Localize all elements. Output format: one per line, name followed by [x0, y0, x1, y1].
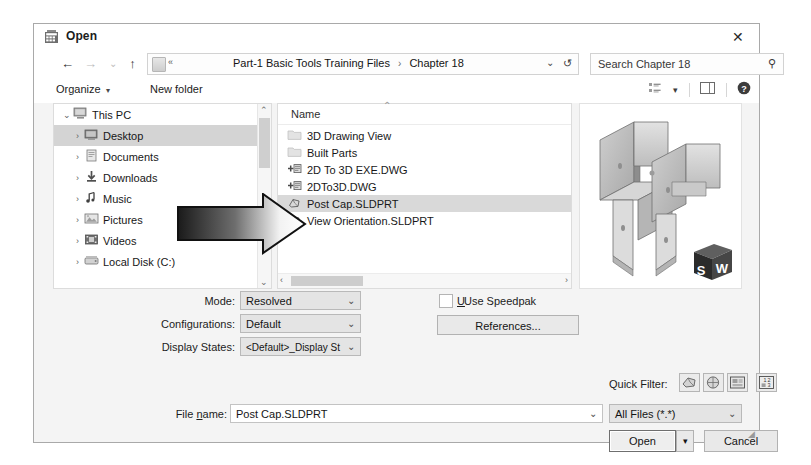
up-one-level-icon[interactable]: ↑ [124, 55, 141, 72]
chevron-down-icon: ⌄ [347, 295, 355, 306]
desktop-icon [84, 127, 99, 140]
svg-text:S: S [697, 263, 706, 278]
toolbar-divider [689, 83, 690, 97]
chevron-right-icon[interactable]: › [71, 126, 84, 147]
breadcrumb-item-1[interactable]: Chapter 18 [409, 57, 463, 69]
chevron-right-icon[interactable]: › [71, 210, 84, 231]
back-icon[interactable]: ← [59, 55, 76, 72]
folder-icon [287, 128, 302, 141]
chevron-down-icon: ⌄ [347, 318, 355, 329]
tree-item-label: Videos [103, 235, 136, 247]
filter-drawings-icon[interactable] [727, 373, 748, 392]
file-list-item[interactable]: Built Parts [278, 144, 571, 161]
dwg-icon [287, 162, 302, 175]
resize-grip[interactable]: ◢ [748, 429, 755, 439]
dwg-icon [287, 179, 302, 192]
chevron-right-icon[interactable]: › [71, 147, 84, 168]
configurations-combobox[interactable]: Default ⌄ [240, 314, 361, 333]
close-icon[interactable]: ✕ [723, 26, 753, 48]
chevron-down-icon[interactable]: ⌄ [546, 57, 554, 68]
recent-locations-icon[interactable]: ⌄ [104, 55, 121, 72]
file-name-input[interactable]: Post Cap.SLDPRT ⌄ [230, 404, 603, 423]
file-list-hscrollbar[interactable]: ‹ › [278, 273, 571, 288]
preview-pane-icon[interactable] [700, 81, 715, 99]
display-states-combobox[interactable]: <Default>_Display St ⌄ [240, 337, 361, 356]
local-disk-icon [84, 253, 99, 266]
file-list-item[interactable]: 2DTo3D.DWG [278, 178, 571, 195]
use-speedpak-checkbox[interactable] [439, 294, 453, 308]
help-icon[interactable]: ? [737, 81, 751, 100]
search-box[interactable]: Search Chapter 18 ⚲ [590, 53, 784, 75]
command-bar: Organize▾ New folder ▾ [34, 77, 759, 103]
dialog-content: ⌄This PC›Desktop›Documents›Downloads›Mus… [34, 103, 759, 442]
scroll-up-icon[interactable]: ⌃ [260, 105, 268, 115]
chevron-right-icon[interactable]: › [71, 231, 84, 252]
scroll-down-icon[interactable]: ⌄ [260, 277, 268, 287]
breadcrumb-item-0[interactable]: Part-1 Basic Tools Training Files [233, 57, 390, 69]
address-bar[interactable]: « Part-1 Basic Tools Training Files › Ch… [147, 53, 579, 75]
filter-assemblies-icon[interactable] [703, 373, 724, 392]
documents-icon [84, 148, 99, 161]
forward-icon[interactable]: → [82, 55, 99, 72]
file-list-item[interactable]: 3D Drawing View [278, 127, 571, 144]
svg-text:?: ? [741, 84, 747, 94]
chevron-right-icon[interactable]: › [71, 189, 84, 210]
search-input[interactable]: Search Chapter 18 [598, 58, 690, 70]
downloads-icon [84, 169, 99, 182]
tree-item-label: Music [103, 193, 132, 205]
mode-combobox[interactable]: Resolved ⌄ [240, 291, 361, 310]
display-states-value: <Default>_Display St [246, 342, 340, 353]
this-pc-icon [73, 106, 88, 119]
svg-text:3: 3 [768, 382, 771, 388]
svg-text:W: W [716, 261, 729, 276]
folder-icon [152, 57, 166, 72]
chevron-down-icon: ⌄ [347, 341, 355, 352]
open-button[interactable]: Open [609, 430, 676, 452]
open-split-caret-icon[interactable]: ▾ [676, 430, 694, 452]
toolbar-divider [726, 83, 727, 97]
tree-item-desktop[interactable]: ›Desktop [54, 125, 271, 146]
filter-top-level-icon[interactable]: 1 2 3 [756, 373, 777, 392]
breadcrumb-overflow-icon[interactable]: « [168, 57, 173, 67]
filter-parts-icon[interactable] [679, 373, 700, 392]
refresh-icon[interactable]: ↺ [563, 57, 572, 70]
pictures-icon [84, 211, 99, 224]
file-list-item[interactable]: Post Cap.SLDPRT [278, 195, 571, 212]
file-name: 2D To 3D EXE.DWG [307, 164, 408, 176]
chevron-down-icon[interactable]: ▾ [673, 81, 678, 99]
tree-item-downloads[interactable]: ›Downloads [54, 167, 271, 188]
organize-label: Organize [56, 83, 101, 95]
tree-item-label: Local Disk (C:) [103, 256, 175, 268]
use-speedpak-text: Use Speedpak [464, 295, 536, 307]
scrollbar-thumb[interactable] [259, 118, 270, 168]
solidworks-open-icon [44, 29, 59, 44]
view-list-icon[interactable] [649, 81, 663, 99]
solidworks-logo: S W [694, 244, 732, 280]
chevron-right-icon[interactable]: › [71, 168, 84, 189]
preview-pane: S W [579, 103, 742, 289]
display-states-label: Display States: [122, 341, 235, 353]
open-file-dialog: Open ✕ ← → ⌄ ↑ « Part-1 Basic Tools Trai… [33, 23, 760, 443]
chevron-right-icon[interactable]: › [71, 252, 84, 273]
file-type-value: All Files (*.*) [615, 408, 676, 420]
mode-value: Resolved [246, 295, 292, 307]
tree-item-this-pc[interactable]: ⌄This PC [54, 104, 271, 125]
scroll-left-icon[interactable]: ‹ [280, 275, 283, 285]
tree-item-label: Pictures [103, 214, 143, 226]
scrollbar-thumb[interactable] [291, 276, 363, 286]
file-list-item[interactable]: View Orientation.SLDPRT [278, 212, 571, 229]
svg-text:1: 1 [764, 377, 767, 383]
file-name: Post Cap.SLDPRT [307, 198, 399, 210]
new-folder-button[interactable]: New folder [150, 83, 203, 95]
file-type-combobox[interactable]: All Files (*.*) ⌄ [609, 404, 742, 423]
file-list-item[interactable]: 2D To 3D EXE.DWG [278, 161, 571, 178]
organize-button[interactable]: Organize▾ [56, 83, 110, 95]
file-name-label-post: ame: [203, 408, 227, 420]
use-speedpak-label[interactable]: UUse Speedpak [457, 295, 536, 307]
scroll-right-icon[interactable]: › [565, 275, 568, 285]
tree-item-documents[interactable]: ›Documents [54, 146, 271, 167]
column-header-name[interactable]: Name [291, 108, 320, 120]
cancel-button[interactable]: Cancel [704, 430, 778, 452]
references-button[interactable]: References... [437, 315, 579, 335]
chevron-down-icon[interactable]: ⌄ [60, 105, 73, 126]
